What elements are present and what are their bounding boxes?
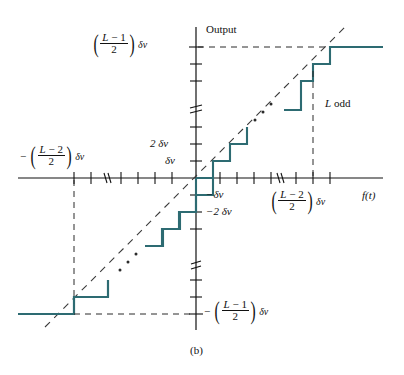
quantizer-staircase-upper — [196, 47, 383, 178]
ellipsis-dots-upper — [254, 103, 273, 122]
paren-open-icon: ( — [272, 191, 277, 212]
output-axis-label: Output — [206, 24, 237, 35]
quantizer-staircase-lower — [18, 178, 196, 314]
fraction-denominator: 2 — [278, 201, 305, 212]
paren-close-icon: ) — [307, 191, 312, 212]
fraction-denominator: 2 — [100, 44, 127, 55]
paren-open-icon: ( — [215, 301, 220, 322]
y-label-positive-saturation: ( L − 1 2 ) δv — [92, 33, 147, 56]
figure-caption: (b) — [190, 345, 203, 356]
fraction-denominator: 2 — [222, 311, 249, 322]
paren-close-icon: ) — [129, 34, 134, 55]
condition-label-text: odd — [331, 97, 350, 109]
y-tick-label-neg-two-delta: −2 δv — [206, 206, 232, 217]
delta-v-unit: δv — [75, 152, 84, 162]
plot-canvas — [0, 0, 404, 375]
y-tick-label-two-delta: 2 δv — [150, 138, 168, 149]
fraction-bottom-y: L − 1 2 — [222, 299, 249, 322]
ellipsis-dots-lower — [119, 253, 138, 272]
x-label-negative-knee: − ( L − 2 2 ) δv — [20, 145, 84, 168]
guide-lines-group — [74, 47, 330, 314]
delta-v-unit: δv — [259, 307, 268, 317]
minus-sign: − — [204, 306, 210, 317]
condition-label-l-odd: L odd — [325, 98, 350, 109]
y-tick-label-neg-one-delta: −δv — [206, 189, 223, 200]
paren-open-icon: ( — [31, 146, 36, 167]
fraction-denominator: 2 — [38, 156, 65, 167]
x-label-positive-knee: ( L − 2 2 ) δv — [270, 190, 325, 213]
x-axis-title-suffix: (t) — [365, 189, 375, 201]
delta-v-unit: δv — [316, 197, 325, 207]
fraction-top-y: L − 1 2 — [100, 32, 127, 55]
paren-close-icon: ) — [66, 146, 71, 167]
fraction-left-x: L − 2 2 — [38, 144, 65, 167]
minus-sign: − — [20, 151, 26, 162]
y-tick-label-one-delta: δv — [165, 155, 175, 166]
fraction-right-x: L − 2 2 — [278, 189, 305, 212]
x-axis-title: f(t) — [362, 190, 375, 201]
delta-v-unit: δv — [138, 40, 147, 50]
figure-quantizer-transfer-characteristic: Output L odd ( L − 1 2 ) δv 2 δv δv −δv … — [0, 0, 404, 375]
quantizer-staircase-curve — [18, 178, 213, 314]
y-label-negative-saturation: − ( L − 1 2 ) δv — [204, 300, 268, 323]
paren-close-icon: ) — [250, 301, 255, 322]
paren-open-icon: ( — [94, 34, 99, 55]
